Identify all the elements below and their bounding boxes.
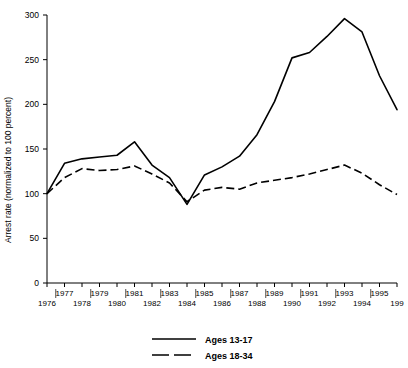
x-tick-label: 1987 [231,289,249,298]
x-tick-label: 1995 [371,289,389,298]
x-tick-label: 1985 [196,289,214,298]
y-tick-label: 0 [34,278,39,288]
x-tick-label: 1989 [266,289,284,298]
x-tick-label: 199 [390,299,404,308]
x-tick-label: 1993 [336,289,354,298]
y-tick-label: 100 [25,189,39,199]
y-tick-label: 250 [25,55,39,65]
x-tick-label: 1986 [213,299,231,308]
x-tick-label: 1988 [248,299,266,308]
x-tick-label: 1982 [143,299,161,308]
x-tick-label: 1980 [108,299,126,308]
x-tick-label: 1984 [178,299,196,308]
y-axis-ticks [43,15,47,283]
x-axis-tick-labels-upper: 1977197919811983198519871989199119931995 [56,289,389,298]
legend-label-ages-13-17: Ages 13-17 [205,335,253,345]
x-tick-label: 1992 [318,299,336,308]
x-tick-label: 1978 [73,299,91,308]
x-tick-label: 1981 [126,289,144,298]
y-tick-label: 150 [25,144,39,154]
legend-label-ages-18-34: Ages 18-34 [205,351,253,361]
x-tick-label: 1983 [161,289,179,298]
x-tick-label: 1976 [38,299,56,308]
x-tick-label: 1990 [283,299,301,308]
y-axis-tick-labels: 050100150200250300 [25,10,39,288]
x-tick-label: 1994 [353,299,371,308]
y-tick-label: 200 [25,99,39,109]
x-tick-label: 1977 [56,289,74,298]
line-chart-svg: 050100150200250300 197719791981198319851… [0,0,408,368]
series-line-ages-13-17 [47,19,397,205]
chart-legend: Ages 13-17 Ages 18-34 [152,335,253,361]
x-tick-label: 1979 [91,289,109,298]
chart-figure: 050100150200250300 197719791981198319851… [0,0,408,368]
series-line-ages-18-34 [47,165,397,202]
x-tick-label: 1991 [301,289,319,298]
y-tick-label: 50 [30,233,40,243]
y-tick-label: 300 [25,10,39,20]
x-axis-tick-labels-lower: 1976197819801982198419861988199019921994… [38,299,404,308]
y-axis-title: Arrest rate (normalized to 100 percent) [3,97,13,243]
